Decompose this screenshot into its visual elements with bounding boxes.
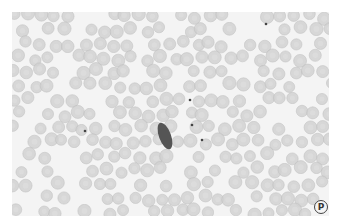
micrograph <box>12 12 329 216</box>
panel-label: P <box>314 200 328 214</box>
blood-cells <box>12 12 329 216</box>
